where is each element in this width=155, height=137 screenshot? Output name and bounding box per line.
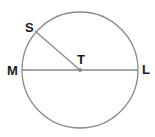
- label-s: S: [25, 21, 34, 34]
- circle-diagram: [0, 0, 155, 137]
- center-point-dot: [78, 68, 82, 72]
- label-l: L: [142, 63, 150, 76]
- label-t: T: [77, 53, 85, 66]
- label-m: M: [7, 64, 18, 77]
- radius-ST: [35, 31, 80, 70]
